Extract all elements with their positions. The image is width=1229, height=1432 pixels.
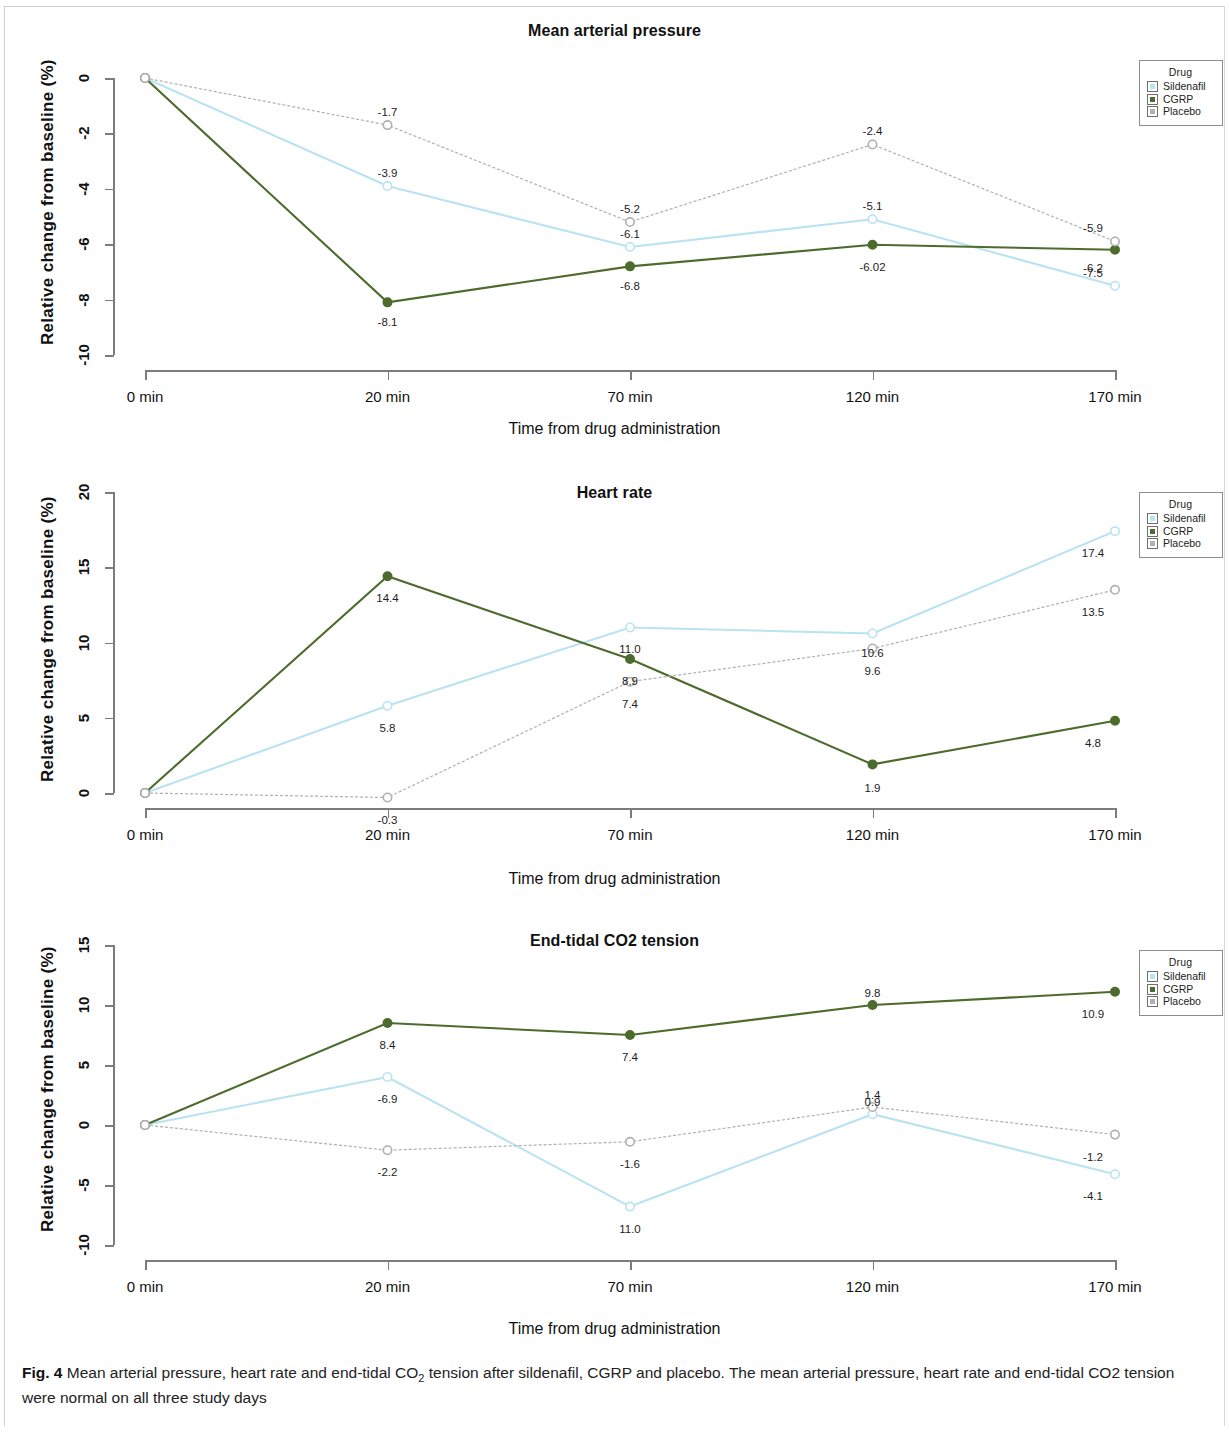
legend-item-cgrp[interactable]: CGRP: [1147, 526, 1214, 537]
data-point-sildenafil: [1111, 1170, 1119, 1178]
data-point-sildenafil: [383, 182, 391, 190]
data-value-label: 7.4: [622, 1051, 638, 1063]
data-point-cgrp: [383, 572, 391, 580]
data-value-label: -6.2: [1083, 262, 1103, 274]
series-line-sildenafil: [145, 78, 1115, 286]
data-point-placebo: [1111, 237, 1119, 245]
data-value-label: -0.3: [378, 814, 398, 826]
caption-text-1: Mean arterial pressure, heart rate and e…: [62, 1364, 418, 1381]
data-point-sildenafil: [626, 623, 634, 631]
legend-item-sildenafil[interactable]: Sildenafil: [1147, 513, 1214, 524]
data-point-placebo: [383, 121, 391, 129]
series-layer: [0, 910, 1229, 1360]
x-axis-label: Time from drug administration: [0, 870, 1229, 888]
legend-item-label: CGRP: [1163, 526, 1193, 537]
legend-item-cgrp[interactable]: CGRP: [1147, 94, 1214, 105]
data-point-cgrp: [1111, 717, 1119, 725]
data-value-label: -1.2: [1083, 1151, 1103, 1163]
data-value-label: -5.9: [1083, 222, 1103, 234]
figure-page: Mean arterial pressure Relative change f…: [0, 0, 1229, 1432]
data-value-label: 8.9: [622, 675, 638, 687]
data-point-placebo: [141, 789, 149, 797]
data-value-label: 10.6: [861, 647, 883, 659]
data-point-cgrp: [383, 1019, 391, 1027]
data-point-sildenafil: [868, 215, 876, 223]
legend-item-sildenafil[interactable]: Sildenafil: [1147, 81, 1214, 92]
data-value-label: -1.6: [620, 1158, 640, 1170]
data-point-cgrp: [626, 655, 634, 663]
legend-title: Drug: [1147, 956, 1214, 968]
data-point-placebo: [383, 793, 391, 801]
data-point-placebo: [383, 1146, 391, 1154]
data-value-label: -2.2: [378, 1166, 398, 1178]
chart-legend: DrugSildenafilCGRPPlacebo: [1139, 492, 1223, 558]
series-line-placebo: [145, 590, 1115, 798]
data-value-label: -1.7: [378, 106, 398, 118]
chart-legend: DrugSildenafilCGRPPlacebo: [1139, 950, 1223, 1016]
legend-item-placebo[interactable]: Placebo: [1147, 106, 1214, 117]
data-value-label: -8.1: [378, 316, 398, 328]
data-point-cgrp: [868, 760, 876, 768]
data-point-cgrp: [868, 1001, 876, 1009]
data-point-cgrp: [868, 241, 876, 249]
legend-item-sildenafil[interactable]: Sildenafil: [1147, 971, 1214, 982]
legend-swatch-icon: [1147, 513, 1158, 524]
data-value-label: 1.9: [865, 782, 881, 794]
data-point-sildenafil: [383, 1073, 391, 1081]
legend-item-cgrp[interactable]: CGRP: [1147, 984, 1214, 995]
data-value-label: -6.8: [620, 280, 640, 292]
legend-item-label: Placebo: [1163, 996, 1201, 1007]
data-value-label: 11.0: [619, 1223, 641, 1235]
data-point-sildenafil: [868, 629, 876, 637]
data-value-label: -4.1: [1083, 1190, 1103, 1202]
legend-item-placebo[interactable]: Placebo: [1147, 996, 1214, 1007]
legend-swatch-icon: [1147, 94, 1158, 105]
data-point-sildenafil: [383, 702, 391, 710]
legend-item-placebo[interactable]: Placebo: [1147, 538, 1214, 549]
data-point-placebo: [626, 1138, 634, 1146]
data-value-label: 5.8: [380, 722, 396, 734]
chart-panel-end-tidal-co2-tension: End-tidal CO2 tension Relative change fr…: [0, 910, 1229, 1360]
data-point-cgrp: [626, 1031, 634, 1039]
data-point-sildenafil: [1111, 282, 1119, 290]
plot-area: Relative change from baseline (%)2015105…: [0, 460, 1229, 910]
data-point-cgrp: [1111, 246, 1119, 254]
series-layer: [0, 0, 1229, 460]
data-point-placebo: [1111, 1130, 1119, 1138]
legend-swatch-icon: [1147, 984, 1158, 995]
data-value-label: 10.9: [1082, 1008, 1104, 1020]
x-axis-label: Time from drug administration: [0, 420, 1229, 438]
data-value-label: 14.4: [376, 592, 398, 604]
data-value-label: 9.6: [865, 665, 881, 677]
data-point-cgrp: [626, 262, 634, 270]
legend-item-label: Sildenafil: [1163, 81, 1206, 92]
data-point-sildenafil: [626, 1202, 634, 1210]
legend-item-label: Sildenafil: [1163, 513, 1206, 524]
data-value-label: -6.1: [620, 228, 640, 240]
data-point-sildenafil: [626, 243, 634, 251]
legend-item-label: Sildenafil: [1163, 971, 1206, 982]
legend-swatch-icon: [1147, 971, 1158, 982]
data-value-label: 11.0: [619, 643, 641, 655]
x-axis-label: Time from drug administration: [0, 1320, 1229, 1338]
legend-swatch-icon: [1147, 81, 1158, 92]
series-layer: [0, 460, 1229, 910]
data-point-placebo: [626, 218, 634, 226]
data-value-label: -6.9: [378, 1093, 398, 1105]
legend-item-label: CGRP: [1163, 94, 1193, 105]
data-point-placebo: [868, 140, 876, 148]
data-point-placebo: [1111, 586, 1119, 594]
legend-swatch-icon: [1147, 996, 1158, 1007]
data-value-label: -5.2: [620, 203, 640, 215]
legend-swatch-icon: [1147, 526, 1158, 537]
data-point-placebo: [141, 1121, 149, 1129]
data-value-label: -5.1: [863, 200, 883, 212]
data-value-label: 17.4: [1082, 547, 1104, 559]
chart-legend: DrugSildenafilCGRPPlacebo: [1139, 60, 1223, 126]
legend-item-label: Placebo: [1163, 538, 1201, 549]
legend-item-label: CGRP: [1163, 984, 1193, 995]
data-value-label: 13.5: [1082, 606, 1104, 618]
figure-caption: Fig. 4 Mean arterial pressure, heart rat…: [22, 1362, 1207, 1410]
chart-panel-heart-rate: Heart rate Relative change from baseline…: [0, 460, 1229, 910]
legend-swatch-icon: [1147, 538, 1158, 549]
